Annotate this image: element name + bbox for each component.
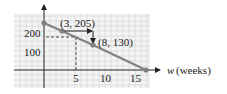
x-axis-var: w xyxy=(167,64,175,76)
x-tick-5: 5 xyxy=(73,72,79,84)
point-label-3-205: (3, 205) xyxy=(60,17,95,30)
point-3-205 xyxy=(59,28,64,33)
y-tick-100: 100 xyxy=(24,46,41,58)
y-tick-200: 200 xyxy=(24,27,41,39)
point-label-8-130: (8, 130) xyxy=(98,36,133,49)
chart: (3, 205) (8, 130) 200 100 5 10 15 w (wee… xyxy=(0,0,227,94)
x-tick-15: 15 xyxy=(130,72,142,84)
x-axis-unit: (weeks) xyxy=(176,64,211,77)
x-tick-10: 10 xyxy=(100,72,112,84)
point-intercept-x xyxy=(143,67,148,72)
point-intercept-y xyxy=(41,20,46,25)
point-8-130 xyxy=(90,42,95,47)
